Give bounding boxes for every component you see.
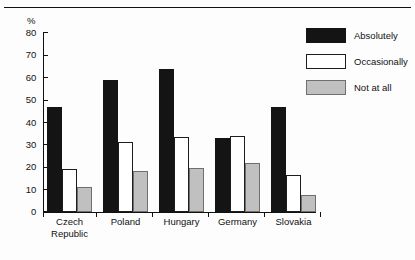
legend-swatch-notatall [306,80,346,95]
legend-label: Absolutely [354,30,398,41]
bar-absolutely [271,107,286,212]
y-axis-tick [43,100,48,101]
y-axis-tick-label: 20 [12,162,36,172]
bar-occasionally [118,142,133,212]
bar-occasionally [174,137,189,212]
x-axis-tick [43,212,44,217]
legend-label: Not at all [354,82,392,93]
bar-absolutely [159,69,174,212]
x-axis-category-label: Slovakia [262,216,326,228]
bar-absolutely [103,80,118,212]
bar-occasionally [286,175,301,212]
plot-area: % 01020304050607080 Czech RepublicPoland… [0,0,415,260]
bar-notatall [245,163,260,212]
y-axis-tick-label: 80 [12,28,36,38]
y-axis-tick-label: 30 [12,140,36,150]
y-axis-tick-label: 0 [12,207,36,217]
bar-occasionally [62,169,77,212]
bar-notatall [77,187,92,212]
legend-label: Occasionally [354,56,408,67]
legend-swatch-absolutely [306,28,346,43]
bar-notatall [133,171,148,212]
x-axis-category-label: Germany [206,216,270,228]
chart-figure: % 01020304050607080 Czech RepublicPoland… [0,0,415,260]
y-axis-tick-label: 70 [12,50,36,60]
x-axis-category-label: Hungary [150,216,214,228]
x-axis-line [43,212,316,213]
x-axis-category-label: Czech Republic [38,216,102,239]
bar-absolutely [215,138,230,212]
y-axis-tick-label: 60 [12,73,36,83]
x-axis-category-label: Poland [94,216,158,228]
y-axis-tick [43,55,48,56]
bar-occasionally [230,136,245,212]
y-axis-tick-label: 50 [12,95,36,105]
y-axis-tick [43,32,48,33]
y-axis-tick [43,77,48,78]
bar-absolutely [47,107,62,212]
y-axis-tick-label: 40 [12,118,36,128]
legend-swatch-occasionally [306,54,346,69]
y-axis-title: % [27,16,35,26]
y-axis-tick-label: 10 [12,185,36,195]
bar-notatall [189,168,204,212]
bar-notatall [301,195,316,212]
